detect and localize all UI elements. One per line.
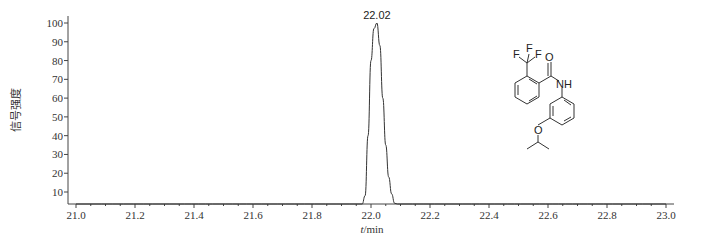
y-tick-label: 50: [52, 111, 64, 123]
y-tick-label: 10: [52, 186, 64, 198]
x-tick-label: 21.2: [125, 209, 144, 221]
chemical-structure: [515, 54, 574, 149]
x-tick-label: 21.6: [243, 209, 263, 221]
y-tick-label: 70: [52, 73, 64, 85]
x-ticks: 21.021.221.421.621.822.022.222.422.622.8…: [66, 204, 676, 221]
x-tick-label: 23.0: [656, 209, 676, 221]
y-tick-label: 20: [52, 167, 64, 179]
x-tick-label: 21.4: [184, 209, 204, 221]
y-tick-label: 100: [47, 17, 64, 29]
atom-f2: F: [526, 42, 533, 54]
y-tick-label: 40: [52, 130, 64, 142]
atom-f3: F: [535, 48, 542, 60]
atom-nh: NH: [556, 78, 572, 90]
y-tick-label: 80: [52, 55, 64, 67]
peak-label: 22.02: [363, 9, 391, 21]
x-tick-label: 22.8: [597, 209, 617, 221]
chromatogram-chart: 102030405060708090100 21.021.221.421.621…: [0, 0, 708, 243]
x-tick-label: 22.2: [420, 209, 439, 221]
x-tick-label: 21.0: [66, 209, 86, 221]
y-tick-label: 60: [52, 92, 64, 104]
atom-o-ether: O: [534, 124, 543, 136]
x-axis-title: t/min: [360, 223, 384, 235]
y-tick-label: 30: [52, 148, 64, 160]
x-tick-label: 22.4: [479, 209, 499, 221]
x-axis-title-unit: /min: [363, 223, 384, 235]
chromatogram-trace: [76, 23, 666, 204]
y-axis-title: 信号强度: [9, 88, 22, 132]
atom-f1: F: [513, 48, 520, 60]
x-tick-label: 22.6: [538, 209, 558, 221]
x-tick-label: 21.8: [302, 209, 322, 221]
atom-o-carbonyl: O: [545, 51, 554, 63]
y-tick-label: 90: [52, 36, 64, 48]
x-tick-label: 22.0: [361, 209, 381, 221]
y-ticks: 102030405060708090100: [47, 17, 69, 198]
